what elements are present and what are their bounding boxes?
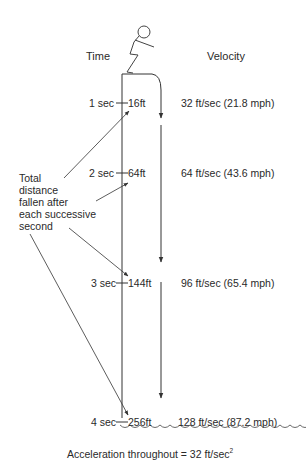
distance-label-1: 16ft (128, 97, 146, 109)
annotation-arrows (30, 111, 129, 415)
time-label-3: 3 sec (91, 277, 116, 289)
velocity-label-1: 32 ft/sec (21.8 mph) (181, 97, 274, 109)
annotation-text: Total distance fallen after each success… (19, 172, 96, 232)
velocity-label-2: 64 ft/sec (43.6 mph) (181, 167, 274, 179)
distance-label-2: 64ft (128, 167, 146, 179)
velocity-header: Velocity (207, 50, 245, 62)
footer-caption: Acceleration throughout = 32 ft/sec2 (67, 447, 233, 460)
time-label-4: 4 sec (91, 416, 116, 428)
cliff-top (122, 74, 161, 118)
time-label-1: 1 sec (89, 97, 114, 109)
stick-figure-icon (127, 26, 154, 73)
distance-label-3: 144ft (128, 277, 151, 289)
diagram-canvas (0, 0, 306, 474)
time-header: Time (86, 50, 110, 62)
velocity-label-4: 128 ft/sec (87.2 mph) (178, 416, 277, 428)
velocity-label-3: 96 ft/sec (65.4 mph) (181, 277, 274, 289)
distance-label-4: 256ft (128, 416, 151, 428)
